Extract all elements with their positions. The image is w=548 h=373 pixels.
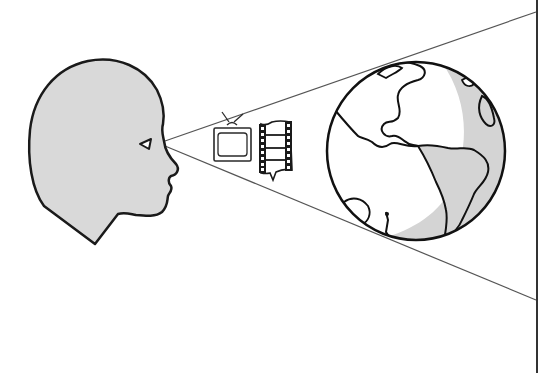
earth-globe-icon [327, 50, 520, 250]
media-worldview-illustration [0, 0, 548, 373]
film-strip-icon [259, 121, 292, 180]
head-profile [29, 60, 178, 244]
television-icon [214, 112, 251, 161]
